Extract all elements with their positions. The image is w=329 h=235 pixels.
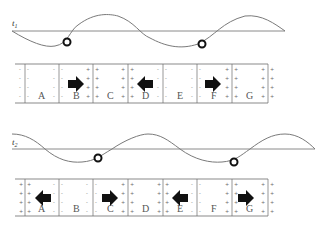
svg-text:-: - — [157, 84, 159, 90]
svg-text:-: - — [95, 208, 97, 214]
svg-text:-: - — [53, 199, 55, 205]
svg-text:-: - — [165, 75, 167, 81]
svg-text:+: + — [157, 181, 161, 187]
svg-text:-: - — [19, 93, 21, 99]
panel-t1: t1 ---- ---- ---- ---- ++++ ++++ — [12, 15, 285, 103]
svg-text:+: + — [19, 190, 23, 196]
svg-text:-: - — [53, 66, 55, 72]
svg-text:+: + — [270, 181, 274, 187]
cell-label-D: D — [142, 203, 149, 214]
svg-text:+: + — [270, 75, 274, 81]
svg-text:+: + — [157, 199, 161, 205]
cell-label-A: A — [38, 90, 46, 101]
svg-text:-: - — [199, 190, 201, 196]
svg-text:-: - — [19, 66, 21, 72]
svg-text:-: - — [191, 75, 193, 81]
svg-text:+: + — [27, 199, 31, 205]
svg-text:+: + — [130, 199, 134, 205]
svg-text:-: - — [19, 75, 21, 81]
svg-text:-: - — [191, 199, 193, 205]
svg-text:+: + — [130, 181, 134, 187]
svg-text:+: + — [19, 199, 23, 205]
cell-label-E: E — [177, 90, 183, 101]
svg-text:+: + — [130, 66, 134, 72]
svg-text:-: - — [191, 84, 193, 90]
svg-text:-: - — [199, 84, 201, 90]
svg-text:+: + — [86, 84, 90, 90]
svg-text:+: + — [130, 84, 134, 90]
arrow-right-icon — [102, 190, 118, 206]
arrow-left-icon — [137, 76, 153, 92]
svg-text:+: + — [261, 190, 265, 196]
svg-text:+: + — [165, 181, 169, 187]
svg-text:+: + — [86, 75, 90, 81]
svg-text:+: + — [157, 208, 161, 214]
svg-text:-: - — [86, 199, 88, 205]
svg-text:+: + — [121, 75, 125, 81]
svg-text:+: + — [234, 181, 238, 187]
svg-text:-: - — [61, 199, 63, 205]
svg-text:+: + — [19, 181, 23, 187]
svg-text:-: - — [61, 75, 63, 81]
svg-text:-: - — [199, 199, 201, 205]
svg-text:-: - — [53, 75, 55, 81]
svg-text:-: - — [165, 84, 167, 90]
svg-text:+: + — [130, 190, 134, 196]
svg-text:+: + — [165, 199, 169, 205]
svg-text:+: + — [225, 66, 229, 72]
svg-text:+: + — [234, 199, 238, 205]
cell-label-B: B — [73, 203, 80, 214]
wave-curve-t2 — [12, 134, 315, 162]
svg-text:-: - — [191, 66, 193, 72]
svg-text:+: + — [234, 75, 238, 81]
svg-text:+: + — [225, 93, 229, 99]
svg-text:-: - — [53, 84, 55, 90]
svg-text:+: + — [270, 66, 274, 72]
svg-text:-: - — [61, 93, 63, 99]
time-label-t1: t1 — [12, 18, 18, 29]
svg-text:+: + — [121, 208, 125, 214]
particle-t1-1 — [64, 39, 71, 46]
svg-text:-: - — [61, 181, 63, 187]
svg-text:+: + — [19, 208, 23, 214]
svg-text:+: + — [270, 208, 274, 214]
particle-t1-2 — [199, 41, 206, 48]
svg-text:-: - — [199, 93, 201, 99]
svg-text:+: + — [27, 181, 31, 187]
panel-t2: t2 ++++ ++++ ---- ---- ---- ---- ++ — [12, 134, 315, 216]
svg-text:-: - — [165, 93, 167, 99]
svg-text:+: + — [165, 208, 169, 214]
svg-text:-: - — [191, 208, 193, 214]
svg-text:+: + — [165, 190, 169, 196]
svg-text:-: - — [95, 190, 97, 196]
svg-text:+: + — [225, 190, 229, 196]
svg-text:+: + — [121, 66, 125, 72]
svg-text:-: - — [53, 93, 55, 99]
svg-text:+: + — [261, 93, 265, 99]
svg-text:+: + — [234, 66, 238, 72]
svg-text:-: - — [53, 181, 55, 187]
svg-text:+: + — [27, 208, 31, 214]
svg-text:+: + — [121, 84, 125, 90]
svg-text:+: + — [95, 84, 99, 90]
svg-text:+: + — [225, 181, 229, 187]
svg-text:+: + — [261, 75, 265, 81]
svg-text:-: - — [199, 181, 201, 187]
svg-text:-: - — [61, 208, 63, 214]
svg-text:-: - — [86, 208, 88, 214]
svg-text:-: - — [199, 208, 201, 214]
svg-text:+: + — [27, 190, 31, 196]
svg-text:+: + — [157, 190, 161, 196]
svg-text:+: + — [261, 84, 265, 90]
svg-text:+: + — [95, 66, 99, 72]
cell-label-B: B — [73, 90, 80, 101]
svg-text:-: - — [191, 181, 193, 187]
svg-text:-: - — [86, 190, 88, 196]
svg-text:+: + — [225, 75, 229, 81]
arrow-right-icon — [68, 76, 84, 92]
svg-text:-: - — [165, 66, 167, 72]
svg-text:-: - — [53, 190, 55, 196]
svg-text:-: - — [199, 66, 201, 72]
svg-text:+: + — [234, 190, 238, 196]
svg-text:+: + — [261, 66, 265, 72]
